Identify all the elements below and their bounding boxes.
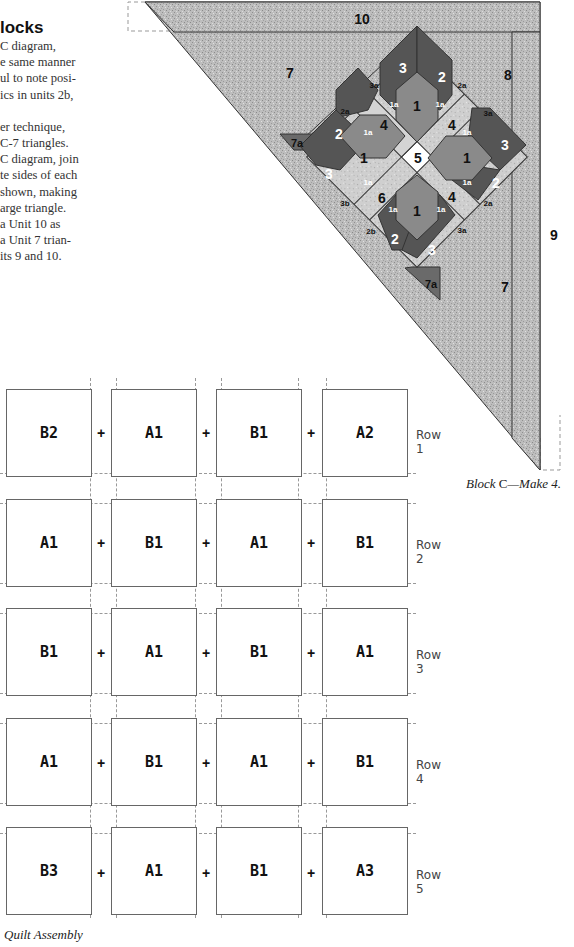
block-label: A2: [323, 424, 407, 442]
block-label: A1: [112, 643, 196, 661]
label-unit-1a: 1a: [436, 100, 445, 109]
quilt-block: B1: [322, 499, 408, 587]
label-unit-2-right: 2: [492, 175, 500, 191]
quilt-block: B1: [216, 389, 302, 477]
quilt-block: A1: [6, 718, 92, 806]
plus-sign: +: [307, 755, 315, 771]
plus-sign: +: [307, 645, 315, 661]
label-unit-2-top: 2: [438, 69, 446, 85]
label-unit-1-top: 1: [413, 98, 421, 114]
block-label: A1: [7, 534, 91, 552]
block-label: A1: [7, 753, 91, 771]
row-label: Row 3: [416, 648, 441, 676]
label-unit-1a: 1a: [364, 178, 373, 187]
plus-sign: +: [97, 425, 105, 441]
label-unit-3-left: 3: [325, 166, 333, 182]
plus-sign: +: [307, 865, 315, 881]
quilt-block: B1: [6, 608, 92, 696]
row-label: Row 4: [416, 758, 441, 786]
block-label: B1: [217, 862, 301, 880]
block-label: A1: [217, 753, 301, 771]
block-label: B2: [7, 424, 91, 442]
label-unit-2a: 2a: [458, 81, 467, 90]
quilt-block: B2: [6, 389, 92, 477]
label-unit-1a: 1a: [364, 128, 373, 137]
label-unit-1-right: 1: [463, 150, 471, 166]
plus-sign: +: [307, 535, 315, 551]
quilt-block: A1: [322, 608, 408, 696]
plus-sign: +: [97, 535, 105, 551]
row-label: Row 1: [416, 428, 441, 456]
block-c-caption: Block C—Make 4.: [466, 476, 561, 492]
label-unit-8: 8: [504, 67, 512, 83]
label-unit-6: 6: [378, 190, 386, 206]
label-unit-2a: 2a: [341, 107, 350, 116]
label-unit-7a-left: 7a: [291, 137, 304, 149]
label-unit-9: 9: [550, 227, 558, 243]
label-unit-4-tl: 4: [380, 117, 388, 133]
plus-sign: +: [97, 645, 105, 661]
label-unit-1a: 1a: [437, 205, 446, 214]
quilt-block: A1: [216, 718, 302, 806]
block-label: B1: [323, 534, 407, 552]
label-unit-3a: 3a: [458, 226, 467, 235]
quilt-block: B1: [322, 718, 408, 806]
quilt-assembly-caption: Quilt Assembly: [4, 927, 83, 943]
label-unit-2a: 2a: [484, 199, 493, 208]
block-label: B1: [323, 753, 407, 771]
plus-sign: +: [97, 865, 105, 881]
plus-sign: +: [202, 535, 210, 551]
label-unit-1a: 1a: [463, 178, 472, 187]
quilt-block: B1: [111, 499, 197, 587]
label-unit-1a: 1a: [390, 100, 399, 109]
label-unit-7a-bottom: 7a: [425, 278, 438, 290]
plus-sign: +: [307, 425, 315, 441]
label-unit-4-tr: 4: [448, 117, 456, 133]
plus-sign: +: [97, 755, 105, 771]
row-label: Row 5: [416, 868, 441, 896]
block-label: A3: [323, 862, 407, 880]
plus-sign: +: [202, 645, 210, 661]
block-label: A1: [323, 643, 407, 661]
unit-10-strip: [145, 2, 540, 32]
quilt-block: B3: [6, 827, 92, 915]
plus-sign: +: [202, 865, 210, 881]
block-label: B1: [217, 643, 301, 661]
label-unit-3-top: 3: [399, 60, 407, 76]
label-unit-1a: 1a: [463, 128, 472, 137]
block-label: B1: [7, 643, 91, 661]
block-label: A1: [112, 424, 196, 442]
label-unit-1a: 1a: [389, 205, 398, 214]
label-unit-7-top: 7: [286, 65, 294, 81]
quilt-block: A1: [216, 499, 302, 587]
label-unit-1-bottom: 1: [413, 203, 421, 219]
quilt-block: A1: [6, 499, 92, 587]
quilt-block: B1: [216, 608, 302, 696]
label-unit-3a: 3a: [370, 81, 379, 90]
label-unit-4-br: 4: [448, 189, 456, 205]
label-unit-3a: 3a: [484, 109, 493, 118]
quilt-block: B1: [216, 827, 302, 915]
plus-sign: +: [202, 755, 210, 771]
label-unit-3b: 3b: [340, 199, 349, 208]
label-unit-7-bottom: 7: [501, 279, 509, 295]
row-label: Row 2: [416, 538, 441, 566]
block-label: B1: [112, 534, 196, 552]
block-label: B1: [112, 753, 196, 771]
quilt-block: A2: [322, 389, 408, 477]
label-unit-1-left: 1: [360, 150, 368, 166]
plus-sign: +: [202, 425, 210, 441]
label-unit-10: 10: [354, 11, 370, 27]
label-unit-5: 5: [414, 150, 422, 166]
block-label: A1: [112, 862, 196, 880]
label-unit-2-left: 2: [335, 126, 343, 142]
label-unit-3-bottom: 3: [428, 242, 436, 258]
quilt-block: A3: [322, 827, 408, 915]
unit-9-strip: [512, 32, 540, 470]
quilt-block: B1: [111, 718, 197, 806]
block-label: B3: [7, 862, 91, 880]
label-unit-3-right: 3: [501, 137, 509, 153]
block-label: B1: [217, 424, 301, 442]
quilt-block: A1: [111, 827, 197, 915]
quilt-block: A1: [111, 608, 197, 696]
